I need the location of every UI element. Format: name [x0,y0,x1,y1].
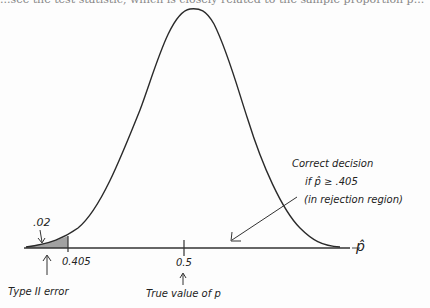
x-axis-label: p̂ [356,238,365,254]
correct-decision-line3: (in rejection region) [304,194,403,205]
true-value-label: True value of p [146,288,221,299]
bell-curve [26,9,340,247]
correct-decision-line2: if p̂ ≥ .405 [305,176,358,187]
correct-decision-line1: Correct decision [292,158,373,169]
diagram-canvas: ...see the test statistic, which is clos… [0,0,430,308]
type-ii-error-label: Type II error [8,286,69,297]
shaded-area-label: .02 [33,216,51,229]
true-value-tick-label: 0.5 [176,257,192,268]
critical-value-label: 0.405 [62,256,91,267]
arrow-correct-decision [232,197,297,240]
